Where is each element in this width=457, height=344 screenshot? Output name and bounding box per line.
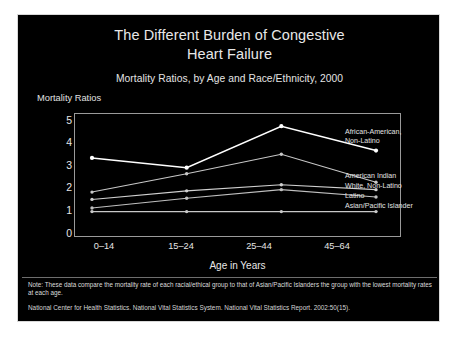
series-label-white-non-latino: White, Non-Latino: [345, 182, 402, 191]
x-tick-15-24: 15–24: [151, 241, 211, 251]
data-point: [185, 196, 188, 199]
x-axis-title: Age in Years: [74, 260, 401, 271]
y-tick-2: 2: [56, 182, 72, 193]
x-tick-0-14: 0–14: [74, 241, 134, 251]
data-point: [280, 188, 283, 191]
x-tick-45-64: 45–64: [307, 241, 367, 251]
slide-title: The Different Burden of Congestive Heart…: [18, 26, 440, 64]
slide-title-line-1: The Different Burden of Congestive: [18, 26, 440, 45]
chart-note: Note: These data compare the mortality r…: [28, 281, 432, 298]
data-point: [374, 195, 377, 198]
data-point: [185, 172, 188, 175]
series-0: [90, 124, 378, 170]
footnote-divider: [22, 277, 437, 278]
series-label-asian-pacific-islander: Asian/Pacific Islander: [345, 202, 413, 211]
y-tick-1: 1: [56, 205, 72, 216]
series-line: [92, 154, 376, 192]
series-4: [90, 210, 377, 213]
y-tick-0: 0: [56, 228, 72, 239]
y-axis-title: Mortality Ratios: [37, 93, 101, 103]
chart-source: National Center for Health Statistics. N…: [28, 304, 436, 311]
series-label-latino: Latino: [345, 192, 364, 201]
data-point: [90, 210, 93, 213]
y-tick-4: 4: [56, 137, 72, 148]
slide-title-line-2: Heart Failure: [18, 45, 440, 64]
y-tick-3: 3: [56, 160, 72, 171]
series-line: [92, 126, 376, 167]
series-2: [90, 183, 377, 201]
data-point: [280, 183, 283, 186]
data-point: [280, 210, 283, 213]
data-point: [185, 189, 188, 192]
series-line: [92, 185, 376, 200]
chart-subtitle: Mortality Ratios, by Age and Race/Ethnic…: [18, 73, 440, 84]
series-3: [90, 188, 377, 210]
series-label-american-indian: American Indian: [345, 172, 396, 181]
y-tick-5: 5: [56, 115, 72, 126]
presentation-slide: The Different Burden of Congestive Heart…: [17, 14, 440, 322]
data-point: [185, 210, 188, 213]
data-point: [90, 198, 93, 201]
data-point: [90, 206, 93, 209]
x-tick-25-44: 25–44: [229, 241, 289, 251]
data-point: [279, 124, 283, 128]
data-point: [90, 156, 94, 160]
data-point: [90, 190, 93, 193]
data-point: [374, 149, 378, 153]
series-label-african-american: African-American, Non-Latino: [345, 128, 401, 146]
data-point: [280, 153, 283, 156]
series-line: [92, 190, 376, 208]
data-point: [185, 166, 189, 170]
